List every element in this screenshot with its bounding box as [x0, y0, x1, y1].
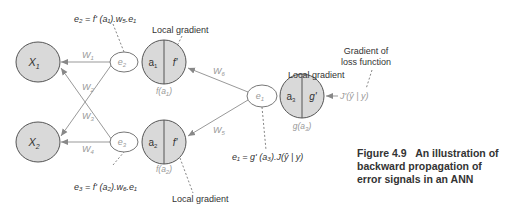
loss-input-label: J'(ŷ | y) — [339, 91, 369, 101]
gradient-of-loss-label-line2: loss function — [341, 57, 391, 67]
local-gradient-label-1: Local gradient — [152, 25, 209, 35]
edge-w3 — [61, 64, 112, 136]
local-gradient-label-2: Local gradient — [172, 194, 229, 204]
svg-text:f(a2): f(a2) — [156, 164, 172, 175]
svg-text:f(a1): f(a1) — [156, 86, 172, 97]
node-e3: e3 — [110, 132, 138, 152]
gradient-of-loss-label-line1: Gradient of — [344, 46, 389, 56]
local-gradient-label-3: Local gradient — [288, 70, 345, 80]
node-e2: e2 — [110, 52, 138, 72]
weight-w2: W2 — [82, 82, 95, 93]
equation-e1: e₁ = g' (a₃).J(ŷ | y) — [232, 152, 303, 162]
node-x1: X1 — [16, 42, 60, 82]
weight-w1: W1 — [82, 50, 94, 61]
weight-w5: W5 — [213, 125, 226, 136]
edge-w2 — [61, 68, 112, 140]
node-e1: e1 — [247, 85, 277, 107]
equation-e2: e₂ = f' (a₁).w₅.e₁ — [74, 14, 136, 24]
figure-number: Figure 4.9 — [357, 147, 407, 159]
annotations: Local gradient Local gradient Local grad… — [152, 25, 391, 204]
node-x2: X2 — [16, 122, 60, 162]
weight-w4: W4 — [82, 144, 95, 155]
weight-w6: W6 — [213, 66, 226, 77]
neuron-a1: a1 f' f(a1) — [142, 40, 186, 97]
svg-text:g(a3): g(a3) — [293, 121, 312, 132]
svg-text:g': g' — [309, 91, 318, 102]
figure-caption: Figure 4.9 An illustration of backward p… — [357, 147, 507, 186]
neuron-a2: a2 f' f(a2) — [142, 120, 186, 175]
equation-e3: e₃ = f' (a₂).w₆.e₁ — [74, 182, 137, 192]
neuron-a3: a3 g' g(a3) — [280, 74, 324, 132]
